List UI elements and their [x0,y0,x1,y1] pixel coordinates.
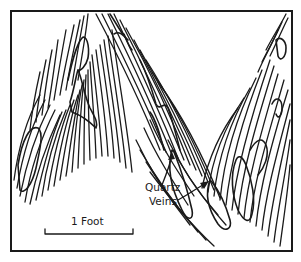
fold-sketch: Quartz Veins 1 Foot [0,0,301,262]
vein-label-quartz: Quartz [145,181,181,193]
foliation-left-limb [14,14,132,204]
foliation-central-band [96,14,226,246]
vein-label-veins: Veins [149,195,177,207]
scale-bar-label: 1 Foot [71,215,104,227]
scale-bar-line [45,229,133,234]
scale-bar: 1 Foot [45,215,133,234]
geology-figure: Quartz Veins 1 Foot [0,0,301,262]
